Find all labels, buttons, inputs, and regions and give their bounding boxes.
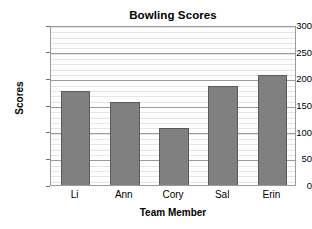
x-tick-label: Erin: [247, 189, 296, 201]
bar: [61, 91, 91, 186]
chart-title: Bowling Scores: [50, 8, 296, 22]
bar: [159, 128, 189, 186]
y-tick-label: 200: [268, 74, 312, 84]
x-tick-label: Li: [50, 189, 99, 201]
y-tick-mark: [46, 132, 50, 133]
bars-layer: [51, 27, 295, 185]
y-tick-label: 50: [268, 154, 312, 164]
x-axis-title: Team Member: [50, 207, 296, 219]
y-tick-mark: [46, 26, 50, 27]
y-tick-label: 150: [268, 101, 312, 111]
x-tick-label: Sal: [198, 189, 247, 201]
y-tick-label: 300: [268, 21, 312, 31]
x-tick-label: Cory: [148, 189, 197, 201]
y-tick-label: 250: [268, 48, 312, 58]
bar: [208, 86, 238, 186]
y-tick-mark: [46, 106, 50, 107]
x-tick-label: Ann: [99, 189, 148, 201]
plot-area: [50, 26, 296, 186]
y-tick-mark: [46, 159, 50, 160]
y-tick-mark: [46, 79, 50, 80]
y-tick-mark: [46, 52, 50, 53]
y-tick-label: 100: [268, 128, 312, 138]
y-axis-title: Scores: [14, 68, 26, 128]
bar-chart: Bowling Scores Scores Team Member 050100…: [0, 0, 312, 229]
bar: [110, 102, 140, 186]
y-tick-mark: [46, 186, 50, 187]
